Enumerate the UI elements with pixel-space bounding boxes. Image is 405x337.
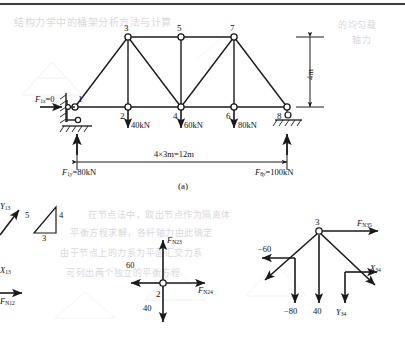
node-label-4: 4 — [173, 112, 178, 121]
reaction-label-F1y: F1y=80kN — [62, 168, 96, 178]
node-label-1: 1 — [78, 95, 83, 104]
fbd3-label-X34: X34 — [370, 264, 381, 274]
node-6 — [231, 104, 237, 110]
load-label-node-4: 60kN — [184, 121, 203, 130]
figure-page: 结构力学中的桶架分析方法与计算 的均匀载 轴力 在节点法中，取出节点作为隔离体 … — [0, 0, 405, 337]
node-7 — [231, 34, 237, 40]
fbd3-arrow-diag-left — [265, 233, 318, 280]
node-label-7: 7 — [230, 24, 235, 33]
node-8 — [284, 104, 290, 110]
fbd-node-3-arrows — [262, 231, 378, 303]
fbd2-label-down-force: 40 — [143, 304, 152, 313]
fbd3-label-minus80: −80 — [284, 307, 297, 316]
slope-label-hypotenuse: 5 — [25, 211, 29, 220]
node-5 — [178, 34, 184, 40]
node-2 — [125, 104, 131, 110]
fbd2-node-label: 2 — [156, 290, 161, 299]
node-label-8: 8 — [277, 112, 282, 121]
node-label-6: 6 — [226, 112, 231, 121]
slope-label-horizontal: 3 — [42, 234, 46, 243]
fbd3-label-Y34: Y34 — [336, 308, 346, 318]
node-4 — [178, 104, 184, 110]
fbd1-label-FN12: FN12 — [0, 297, 15, 307]
fbd-node-1-arrows — [0, 210, 22, 293]
reaction-label-F1x: F1x=0 — [35, 95, 55, 105]
node-label-2: 2 — [120, 112, 125, 121]
fbd3-arrow-diag-right — [320, 233, 375, 285]
height-dimension-label: 4m — [306, 69, 315, 80]
fbd3-label-40: 40 — [313, 307, 322, 316]
fbd3-node-dot — [316, 228, 322, 234]
fbd1-label-X13: X13 — [0, 266, 11, 276]
slope-triangle — [34, 207, 56, 233]
node-label-3: 3 — [124, 24, 129, 33]
fbd2-label-FN24: FN24 — [198, 286, 213, 296]
fbd2-label-FN23: FN23 — [167, 236, 182, 246]
node-label-5: 5 — [177, 24, 182, 33]
fbd1-label-Y13: Y13 — [0, 202, 10, 212]
fbd2-node-dot — [160, 280, 166, 286]
fbd3-label-minus60: −60 — [258, 245, 271, 254]
fbd1-arrow-resultant — [0, 210, 19, 235]
fbd3-label-FN35: FN35 — [357, 219, 372, 229]
span-dimension-label: 4×3m=12m — [154, 150, 194, 159]
pin-support-left — [60, 93, 92, 132]
load-label-node-6: 80kN — [238, 121, 257, 130]
fbd3-node-label: 3 — [315, 218, 320, 227]
truss-members — [75, 37, 287, 107]
node-3 — [125, 34, 131, 40]
reaction-label-F8y: F8y=100kN — [255, 168, 293, 178]
slope-label-vertical: 4 — [59, 211, 63, 220]
figure-caption: (a) — [178, 182, 188, 191]
fbd2-label-left-force: 60 — [126, 261, 135, 270]
load-label-node-2: 40kN — [131, 121, 150, 130]
